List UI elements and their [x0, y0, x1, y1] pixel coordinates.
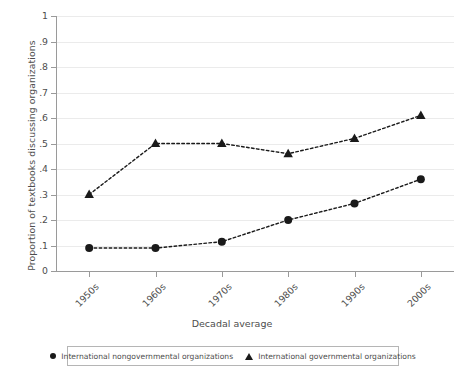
x-tick-label: 1990s [327, 281, 366, 320]
x-tick-mark [421, 272, 422, 277]
x-tick-label: 2000s [394, 281, 433, 320]
series-line [89, 179, 421, 248]
x-tick-mark [156, 272, 157, 277]
triangle-icon [245, 353, 253, 360]
data-point-triangle-marker [350, 133, 360, 142]
y-tick-label: .4 [6, 163, 48, 174]
y-tick-label: 1 [6, 10, 48, 21]
circle-icon [50, 353, 56, 359]
data-point-circle-marker [417, 175, 425, 183]
data-point-circle-marker [152, 244, 160, 252]
x-tick-label: 1980s [261, 281, 300, 320]
y-tick-label: .1 [6, 240, 48, 251]
data-point-triangle-marker [416, 110, 426, 119]
y-tick-label: 0 [6, 265, 48, 276]
data-series-layer [56, 16, 454, 271]
y-tick-label: .5 [6, 138, 48, 149]
y-tick-label: .2 [6, 214, 48, 225]
chart-figure: Proportion of textbooks discussing organ… [0, 0, 464, 372]
series-line [89, 115, 421, 194]
legend-label: International governmental organizations [258, 352, 416, 361]
x-tick-label: 1970s [195, 281, 234, 320]
x-tick-mark [288, 272, 289, 277]
x-axis-line [56, 271, 454, 272]
data-point-circle-marker [218, 238, 226, 246]
data-point-circle-marker [284, 216, 292, 224]
x-tick-label: 1960s [128, 281, 167, 320]
legend-entry[interactable]: International governmental organizations [245, 352, 416, 361]
data-point-circle-marker [351, 199, 359, 207]
data-point-circle-marker [85, 244, 93, 252]
x-tick-label: 1950s [62, 281, 101, 320]
chart-legend: International nongovernmental organizati… [67, 346, 399, 366]
y-tick-mark [51, 271, 56, 272]
y-tick-label: .3 [6, 189, 48, 200]
y-tick-label: .6 [6, 112, 48, 123]
legend-label: International nongovernmental organizati… [61, 352, 233, 361]
x-tick-mark [355, 272, 356, 277]
legend-entry[interactable]: International nongovernmental organizati… [50, 352, 233, 361]
y-tick-label: .8 [6, 61, 48, 72]
x-tick-mark [222, 272, 223, 277]
x-axis-title: Decadal average [0, 318, 464, 329]
y-tick-label: .7 [6, 87, 48, 98]
data-point-triangle-marker [84, 190, 94, 199]
y-tick-label: .9 [6, 36, 48, 47]
x-tick-mark [89, 272, 90, 277]
